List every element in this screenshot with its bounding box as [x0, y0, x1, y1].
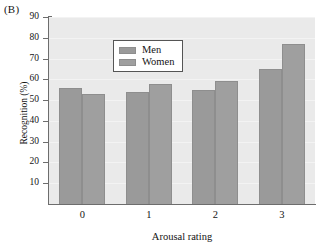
- gridline: [49, 17, 315, 18]
- chart-legend: MenWomen: [113, 40, 183, 72]
- legend-swatch-women: [119, 59, 136, 66]
- legend-item-men: Men: [119, 44, 174, 56]
- y-axis-line: [48, 16, 49, 205]
- bar-men-2: [192, 90, 215, 204]
- y-axis-tick-label: 80: [9, 33, 39, 43]
- legend-label-women: Women: [142, 57, 174, 68]
- y-axis-tick: [43, 142, 48, 143]
- x-axis-line: [48, 204, 316, 205]
- x-axis-tick-label: 2: [195, 209, 235, 220]
- y-axis-tick-label: 40: [9, 116, 39, 126]
- bar-men-0: [59, 88, 82, 204]
- y-axis-cap: [48, 16, 52, 17]
- y-axis-tick-label: 90: [9, 12, 39, 22]
- plot-area: MenWomen: [49, 17, 315, 204]
- y-axis-title: Recognition (%): [19, 53, 29, 173]
- bar-women-1: [149, 84, 172, 205]
- y-axis-tick: [43, 183, 48, 184]
- y-axis-tick: [43, 79, 48, 80]
- y-axis-tick: [43, 162, 48, 163]
- legend-label-men: Men: [142, 45, 161, 56]
- bar-men-3: [259, 69, 282, 204]
- y-axis-tick: [43, 38, 48, 39]
- y-axis-tick-label: 30: [9, 137, 39, 147]
- y-axis-tick: [43, 17, 48, 18]
- x-axis-tick-label: 0: [62, 209, 102, 220]
- bar-women-0: [82, 94, 105, 204]
- bar-chart-figure: (B) Recognition (%) MenWomen 10203040506…: [0, 0, 320, 249]
- legend-item-women: Women: [119, 56, 174, 68]
- y-axis-tick-label: 10: [9, 178, 39, 188]
- gridline: [49, 38, 315, 39]
- y-axis-tick-label: 70: [9, 54, 39, 64]
- y-axis-tick: [43, 100, 48, 101]
- legend-swatch-men: [119, 47, 136, 54]
- y-axis-tick-label: 60: [9, 74, 39, 84]
- x-axis-tick-label: 1: [129, 209, 169, 220]
- bar-women-3: [282, 44, 305, 204]
- x-axis-tick-label: 3: [262, 209, 302, 220]
- bar-men-1: [126, 92, 149, 204]
- bar-women-2: [215, 81, 238, 204]
- x-axis-title: Arousal rating: [48, 231, 316, 242]
- y-axis-tick: [43, 121, 48, 122]
- y-axis-tick: [43, 59, 48, 60]
- y-axis-tick-label: 50: [9, 95, 39, 105]
- y-axis-tick-label: 20: [9, 157, 39, 167]
